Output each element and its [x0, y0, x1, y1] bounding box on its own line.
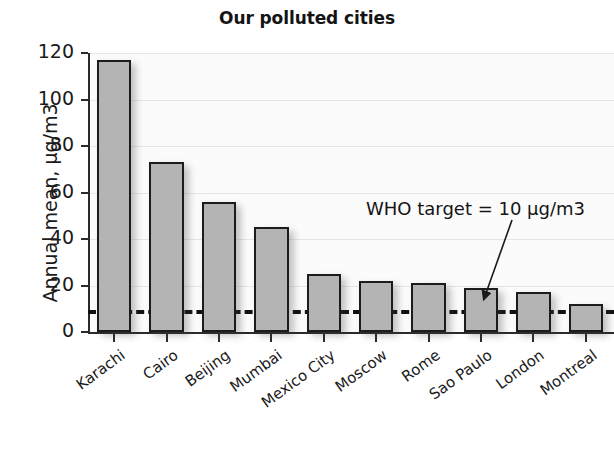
- x-axis-tick: [323, 334, 325, 342]
- gridline: [90, 100, 614, 101]
- x-axis-tick: [113, 334, 115, 342]
- chart-title: Our polluted cities: [0, 8, 614, 28]
- y-axis-tick-label: 0: [0, 319, 74, 341]
- y-axis-tick-label: 40: [0, 226, 74, 248]
- chart-figure: Our polluted cities Annual mean, µg/m3 0…: [0, 0, 614, 452]
- bar-mexico-city: [307, 274, 342, 332]
- x-axis-tick: [585, 334, 587, 342]
- bar-london: [516, 292, 551, 332]
- x-axis-tick: [270, 334, 272, 342]
- y-axis-tick-label: 120: [0, 40, 74, 62]
- x-axis-tick: [532, 334, 534, 342]
- x-axis-tick-label-text: Montreal: [536, 346, 600, 399]
- bar-moscow: [359, 281, 394, 332]
- x-axis-tick-label-text: Cairo: [139, 346, 181, 383]
- y-axis-tick: [81, 285, 88, 287]
- bar-mumbai: [254, 227, 289, 332]
- gridline: [90, 53, 614, 54]
- x-axis-tick: [218, 334, 220, 342]
- y-axis-tick-label: 100: [0, 87, 74, 109]
- gridline: [90, 146, 614, 147]
- bar-beijing: [202, 202, 237, 332]
- y-axis-tick: [81, 331, 88, 333]
- x-axis-tick: [428, 334, 430, 342]
- clipped-caption-strip: [0, 444, 614, 452]
- bar-cairo: [149, 162, 184, 332]
- y-axis-tick: [81, 145, 88, 147]
- bar-rome: [411, 283, 446, 332]
- bar-karachi: [97, 60, 132, 332]
- y-axis-tick: [81, 238, 88, 240]
- y-axis-tick: [81, 52, 88, 54]
- y-axis-tick: [81, 192, 88, 194]
- y-axis-tick-label: 20: [0, 273, 74, 295]
- bar-sao-paulo: [464, 288, 499, 332]
- who-target-annotation: WHO target = 10 µg/m3: [366, 198, 585, 219]
- x-axis-tick: [375, 334, 377, 342]
- x-axis-tick: [480, 334, 482, 342]
- bar-montreal: [569, 304, 604, 332]
- y-axis-tick-label: 80: [0, 133, 74, 155]
- y-axis-tick-label: 60: [0, 180, 74, 202]
- y-axis-tick: [81, 99, 88, 101]
- x-axis-tick: [166, 334, 168, 342]
